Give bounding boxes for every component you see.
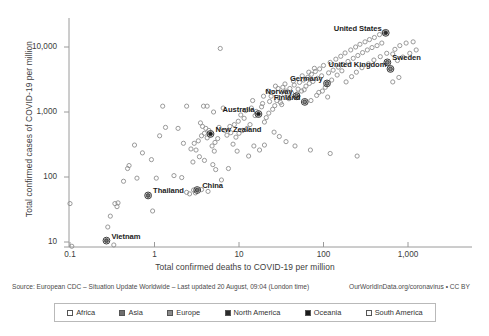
scatter-point[interactable]	[212, 149, 216, 153]
scatter-point[interactable]	[414, 48, 418, 52]
scatter-point[interactable]	[365, 48, 369, 52]
scatter-point[interactable]	[335, 73, 339, 77]
scatter-point[interactable]	[355, 154, 359, 158]
scatter-point[interactable]	[284, 140, 288, 144]
scatter-point[interactable]	[328, 151, 332, 155]
scatter-point[interactable]	[315, 93, 319, 97]
scatter-point[interactable]	[358, 42, 362, 46]
scatter-point[interactable]	[262, 143, 266, 147]
legend-item-south-america[interactable]: South America	[365, 308, 424, 317]
scatter-point[interactable]	[194, 148, 198, 152]
scatter-point[interactable]	[404, 41, 408, 45]
scatter-point[interactable]	[257, 148, 261, 152]
scatter-point[interactable]	[218, 46, 222, 50]
scatter-point[interactable]	[273, 104, 277, 108]
scatter-point[interactable]	[158, 134, 162, 138]
scatter-point[interactable]	[181, 141, 185, 145]
scatter-point[interactable]	[196, 139, 200, 143]
scatter-point[interactable]	[339, 54, 343, 58]
scatter-point[interactable]	[236, 119, 240, 123]
scatter-point[interactable]	[172, 174, 176, 178]
scatter-point[interactable]	[370, 45, 374, 49]
legend-item-asia[interactable]: Asia	[118, 308, 143, 317]
scatter-point[interactable]	[161, 104, 165, 108]
scatter-point[interactable]	[197, 155, 201, 159]
scatter-point[interactable]	[327, 71, 331, 75]
scatter-point[interactable]	[180, 175, 184, 179]
scatter-point[interactable]	[343, 51, 347, 55]
scatter-point[interactable]	[411, 40, 415, 44]
scatter-point[interactable]	[267, 99, 271, 103]
scatter-point[interactable]	[378, 55, 382, 59]
scatter-point[interactable]	[283, 82, 287, 86]
legend-item-europe[interactable]: Europe	[166, 308, 201, 317]
attribution-link[interactable]: OurWorldInData.org/coronavirus • CC BY	[349, 283, 470, 290]
scatter-point[interactable]	[121, 179, 125, 183]
legend-item-north-america[interactable]: North America	[224, 308, 282, 317]
scatter-point[interactable]	[308, 148, 312, 152]
scatter-point[interactable]	[154, 176, 158, 180]
scatter-point[interactable]	[192, 141, 196, 145]
scatter-point[interactable]	[189, 147, 193, 151]
scatter-point[interactable]	[251, 98, 255, 102]
scatter-point[interactable]	[135, 176, 139, 180]
scatter-point[interactable]	[140, 151, 144, 155]
scatter-point[interactable]	[211, 110, 215, 114]
continent-legend[interactable]: AfricaAsiaEuropeNorth AmericaOceaniaSout…	[54, 303, 436, 322]
scatter-point[interactable]	[344, 80, 348, 84]
legend-item-africa[interactable]: Africa	[66, 308, 96, 317]
scatter-point[interactable]	[231, 142, 235, 146]
scatter-point[interactable]	[198, 121, 202, 125]
scatter-point[interactable]	[398, 44, 402, 48]
scatter-point[interactable]	[385, 51, 389, 55]
scatter-point[interactable]	[393, 47, 397, 51]
scatter-point[interactable]	[216, 136, 220, 140]
scatter-point[interactable]	[363, 40, 367, 44]
scatter-point[interactable]	[380, 41, 384, 45]
scatter-point[interactable]	[112, 243, 116, 247]
scatter-point[interactable]	[354, 45, 358, 49]
scatter-point[interactable]	[372, 35, 376, 39]
scatter-point[interactable]	[235, 149, 239, 153]
scatter-point[interactable]	[309, 98, 313, 102]
scatter-point[interactable]	[213, 140, 217, 144]
scatter-point[interactable]	[318, 67, 322, 71]
scatter-point[interactable]	[354, 70, 358, 74]
scatter-point[interactable]	[226, 166, 230, 170]
scatter-point[interactable]	[132, 143, 136, 147]
scatter-point[interactable]	[262, 120, 266, 124]
scatter-point[interactable]	[397, 75, 401, 79]
scatter-point[interactable]	[151, 209, 155, 213]
scatter-point[interactable]	[349, 75, 353, 79]
scatter-point[interactable]	[349, 48, 353, 52]
scatter-point[interactable]	[326, 95, 330, 99]
scatter-point[interactable]	[234, 135, 238, 139]
scatter-point[interactable]	[185, 104, 189, 108]
scatter-point[interactable]	[377, 33, 381, 37]
scatter-point[interactable]	[375, 44, 379, 48]
scatter-point[interactable]	[360, 51, 364, 55]
scatter-point[interactable]	[267, 111, 271, 115]
scatter-point[interactable]	[321, 63, 325, 67]
scatter-point[interactable]	[106, 225, 110, 229]
scatter-point[interactable]	[191, 160, 195, 164]
scatter-point[interactable]	[163, 125, 167, 129]
scatter-point[interactable]	[202, 158, 206, 162]
scatter-point[interactable]	[242, 116, 246, 120]
scatter-point[interactable]	[214, 167, 218, 171]
scatter-point[interactable]	[367, 37, 371, 41]
scatter-point[interactable]	[356, 53, 360, 57]
scatter-point[interactable]	[176, 126, 180, 130]
scatter-point[interactable]	[277, 134, 281, 138]
scatter-point[interactable]	[340, 69, 344, 73]
scatter-point[interactable]	[247, 154, 251, 158]
scatter-point[interactable]	[108, 214, 112, 218]
scatter-point[interactable]	[149, 158, 153, 162]
scatter-point[interactable]	[252, 144, 256, 148]
scatter-point[interactable]	[202, 131, 206, 135]
scatter-point[interactable]	[293, 144, 297, 148]
scatter-point[interactable]	[272, 130, 276, 134]
scatter-point[interactable]	[211, 163, 215, 167]
scatter-point[interactable]	[264, 116, 268, 120]
legend-item-oceania[interactable]: Oceania	[304, 308, 343, 317]
